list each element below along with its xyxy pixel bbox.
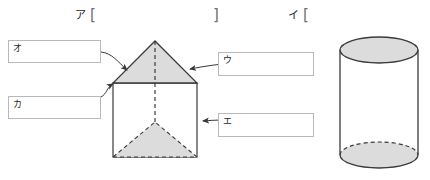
group-label-i-key: イ xyxy=(288,9,299,22)
group-label-i: イ[ xyxy=(288,9,309,22)
cylinder-top-face xyxy=(340,37,418,63)
answer-box-e[interactable]: エ xyxy=(218,113,314,137)
group-label-i-open-bracket: [ xyxy=(299,6,309,24)
answer-box-ka-key: カ xyxy=(9,97,22,110)
leader-line-o xyxy=(101,52,127,70)
leader-line-ka xyxy=(101,84,113,97)
answer-box-u[interactable]: ウ xyxy=(218,52,314,76)
answer-box-ka[interactable]: カ xyxy=(8,96,101,119)
cylinder-figure xyxy=(340,37,418,168)
triangular-prism-figure xyxy=(113,41,197,157)
group-label-a-key: ア xyxy=(75,9,86,22)
worksheet-canvas: ア[ ] イ[ オ カ ウ エ xyxy=(0,0,430,180)
answer-box-u-key: ウ xyxy=(219,53,232,66)
answer-box-o-key: オ xyxy=(9,41,22,54)
answer-box-e-key: エ xyxy=(219,114,232,127)
group-label-a: ア[ xyxy=(75,9,96,22)
group-label-a-close-bracket: ] xyxy=(213,9,219,22)
geometry-figures xyxy=(0,0,430,180)
group-label-a-open-bracket: [ xyxy=(86,6,96,24)
answer-box-o[interactable]: オ xyxy=(8,40,101,63)
